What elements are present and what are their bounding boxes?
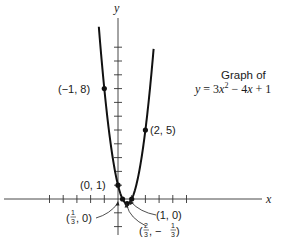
y-axis-label: y [113, 1, 120, 15]
point-label-vertex: ( 2 3 , − 1 3 ) [139, 222, 180, 238]
point-label-0-1: (0, 1) [80, 179, 106, 191]
x-axis-label: x [265, 192, 272, 206]
caption-equation: y = 3x2 − 4x + 1 [194, 81, 271, 96]
svg-text:): ) [176, 225, 180, 237]
plotted-points [102, 86, 148, 206]
svg-text:, 0): , 0) [76, 212, 92, 224]
point-label-one-third-0: ( 1 3 , 0) [66, 209, 92, 225]
svg-text:1: 1 [71, 209, 75, 216]
svg-text:, −: , − [149, 225, 162, 237]
data-point [102, 86, 107, 91]
data-point [120, 196, 125, 201]
data-point [143, 127, 148, 132]
svg-text:(: ( [139, 225, 143, 237]
svg-text:3: 3 [171, 231, 175, 238]
data-point [115, 183, 120, 188]
svg-text:(: ( [66, 212, 70, 224]
svg-text:3: 3 [144, 231, 148, 238]
svg-text:1: 1 [171, 222, 175, 229]
point-label-2-5: (2, 5) [150, 124, 176, 136]
point-label-1-0: (1, 0) [156, 209, 182, 221]
parabola-figure: y x (−1, 8) (2, 5) (0, 1) (1, 0) ( 1 3 ,… [0, 0, 285, 251]
parabola-curve [99, 27, 154, 204]
caption-title: Graph of [221, 69, 267, 81]
point-label-neg1-8: (−1, 8) [58, 83, 90, 95]
svg-text:3: 3 [71, 218, 75, 225]
